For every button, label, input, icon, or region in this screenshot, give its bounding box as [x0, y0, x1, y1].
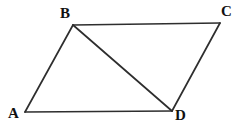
edge-cd [172, 23, 220, 111]
vertex-label-b: B [60, 6, 70, 21]
parallelogram-drawing [0, 0, 246, 133]
diagonal-bd [73, 25, 172, 111]
vertex-label-a: A [8, 106, 19, 121]
edge-ab [25, 25, 73, 112]
vertex-label-c: C [221, 4, 232, 19]
edge-bc [73, 23, 220, 25]
edge-da [25, 111, 172, 112]
vertex-label-d: D [175, 108, 186, 123]
geometry-figure: A B C D [0, 0, 246, 133]
